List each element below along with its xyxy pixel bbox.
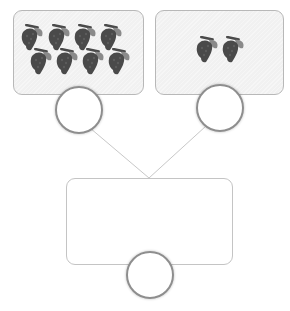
grape-icon: [81, 48, 107, 76]
connector-right: [149, 126, 206, 178]
grape-icon: [55, 48, 81, 76]
grape-icon: [29, 48, 55, 76]
grape-icon: [107, 48, 133, 76]
answer-circle-left[interactable]: [55, 86, 103, 134]
grape-icon: [221, 36, 247, 64]
answer-circle-right[interactable]: [196, 84, 244, 132]
answer-circle-whole[interactable]: [126, 251, 174, 299]
connector-left: [90, 128, 149, 178]
grape-icon: [195, 36, 221, 64]
